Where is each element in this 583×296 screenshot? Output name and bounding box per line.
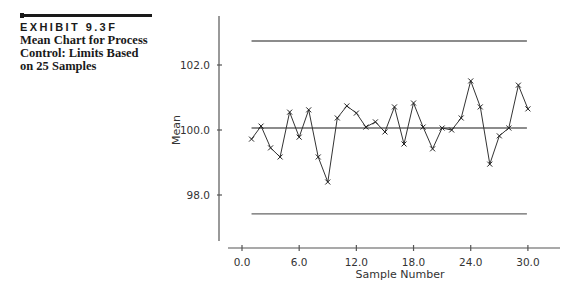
x-tick-label: 30.0: [516, 256, 539, 268]
x-marker-icon: [344, 103, 349, 108]
x-marker-icon: [268, 145, 273, 150]
x-tick-label: 6.0: [291, 256, 308, 268]
control-limit-lines: [252, 41, 527, 214]
x-marker-icon: [421, 125, 426, 130]
x-marker-icon: [382, 129, 387, 134]
mean-control-chart: 98.0100.0102.00.06.012.018.024.030.0 Sam…: [0, 0, 583, 296]
data-series: [249, 78, 530, 184]
x-tick-label: 0.0: [234, 256, 251, 268]
y-tick-label: 100.0: [180, 124, 210, 136]
mean-line: [252, 81, 528, 182]
axes: 98.0100.0102.00.06.012.018.024.030.0: [180, 16, 560, 268]
y-tick-label: 98.0: [187, 189, 210, 201]
x-tick-label: 24.0: [459, 256, 482, 268]
x-marker-icon: [430, 146, 435, 151]
x-marker-icon: [373, 119, 378, 124]
x-marker-icon: [249, 137, 254, 142]
x-marker-icon: [354, 111, 359, 116]
y-axis-title: Mean: [170, 115, 183, 145]
x-marker-icon: [363, 125, 368, 130]
y-tick-label: 102.0: [180, 59, 210, 71]
x-axis-title: Sample Number: [356, 268, 445, 281]
x-marker-icon: [297, 135, 302, 140]
x-marker-icon: [497, 133, 502, 138]
x-tick-label: 12.0: [345, 256, 368, 268]
x-marker-icon: [525, 106, 530, 111]
x-tick-label: 18.0: [402, 256, 425, 268]
